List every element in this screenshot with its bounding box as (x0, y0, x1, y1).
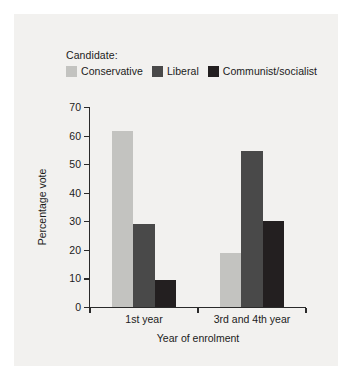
legend-swatch-icon (208, 66, 219, 77)
legend-entry: Liberal (152, 65, 199, 77)
y-axis-tick-label: 60 (69, 130, 81, 142)
chart-legend: Candidate: ConservativeLiberalCommunist/… (66, 49, 336, 77)
legend-swatch-icon (66, 66, 77, 77)
bar (155, 280, 177, 307)
y-axis-tick (84, 164, 89, 165)
y-axis-label: Percentage vote (36, 169, 48, 245)
legend-entry: Conservative (66, 65, 143, 77)
y-axis-tick (84, 136, 89, 137)
x-axis-category-label: 1st year (125, 313, 162, 325)
x-axis-category-label: 3rd and 4th year (214, 313, 290, 325)
bar (263, 221, 285, 307)
plot-area: 0102030405060701st year3rd and 4th year (90, 107, 306, 307)
y-axis-tick (84, 193, 89, 194)
y-axis-tick (84, 307, 89, 308)
legend-swatch-icon (152, 66, 163, 77)
y-axis-tick-label: 70 (69, 101, 81, 113)
y-axis-tick-label: 10 (69, 272, 81, 284)
y-axis-tick-label: 30 (69, 215, 81, 227)
bar (220, 253, 242, 307)
legend-label: Communist/socialist (223, 65, 317, 77)
y-axis-tick-label: 20 (69, 244, 81, 256)
x-axis-tick (197, 308, 198, 313)
legend-entry: Communist/socialist (208, 65, 317, 77)
x-axis-tick (89, 308, 90, 313)
y-axis-tick-label: 50 (69, 158, 81, 170)
legend-label: Conservative (81, 65, 143, 77)
chart-figure: Candidate: ConservativeLiberalCommunist/… (14, 14, 338, 366)
y-axis-tick (84, 278, 89, 279)
legend-items: ConservativeLiberalCommunist/socialist (66, 65, 336, 77)
bar (133, 224, 155, 307)
y-axis-tick (84, 221, 89, 222)
bar (241, 151, 263, 307)
legend-label: Liberal (167, 65, 199, 77)
y-axis-tick-label: 0 (75, 301, 81, 313)
bar (112, 131, 134, 307)
y-axis-line (89, 107, 90, 308)
y-axis-tick (84, 250, 89, 251)
y-axis-tick (84, 107, 89, 108)
y-axis-tick-label: 40 (69, 187, 81, 199)
legend-title: Candidate: (66, 49, 336, 61)
x-axis-tick (305, 308, 306, 313)
x-axis-label: Year of enrolment (90, 332, 306, 344)
